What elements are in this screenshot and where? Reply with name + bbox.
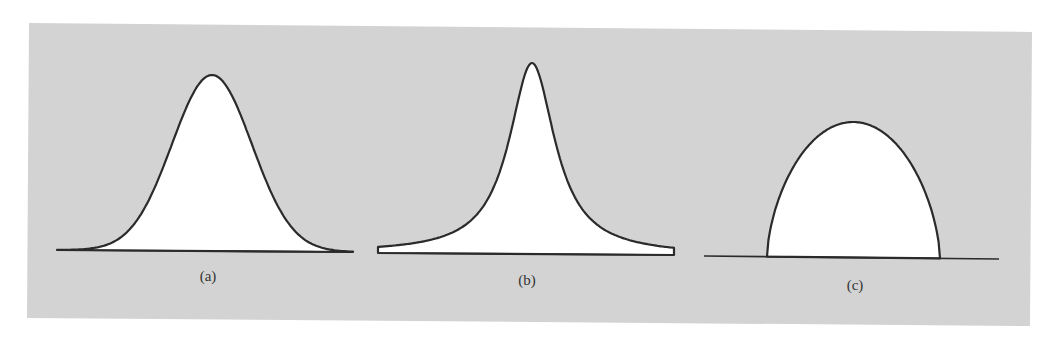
- label-a: (a): [200, 268, 217, 285]
- figure-canvas: (a) (b) (c): [0, 0, 1056, 343]
- label-b: (b): [518, 272, 536, 289]
- label-c: (c): [847, 277, 864, 294]
